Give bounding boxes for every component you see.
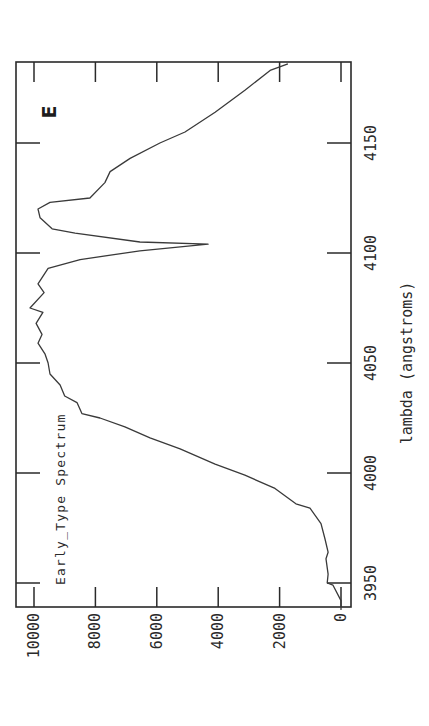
y-tick-label: 8000 xyxy=(86,613,104,649)
x-tick-label: 4050 xyxy=(362,345,380,381)
spectrum-line xyxy=(30,64,341,610)
x-tick-label: 3950 xyxy=(362,565,380,601)
y-tick-label: 10000 xyxy=(25,613,43,658)
annotation-early-type-spectrum: Early_Type Spectrum xyxy=(53,413,68,585)
y-tick-label: 4000 xyxy=(209,613,227,649)
x-tick-label: 4150 xyxy=(362,125,380,161)
x-tick-label: 4000 xyxy=(362,455,380,491)
y-tick-label: 6000 xyxy=(148,613,166,649)
spectrum-chart: 3950400040504100415002000400060008000100… xyxy=(0,0,429,726)
y-tick-label: 0 xyxy=(332,613,350,622)
x-tick-label: 4100 xyxy=(362,235,380,271)
tick-labels: 3950400040504100415002000400060008000100… xyxy=(25,125,380,658)
y-tick-label: 2000 xyxy=(271,613,289,649)
panel-label: E xyxy=(38,106,60,119)
x-axis-label: lambda (angstroms) xyxy=(398,282,416,445)
